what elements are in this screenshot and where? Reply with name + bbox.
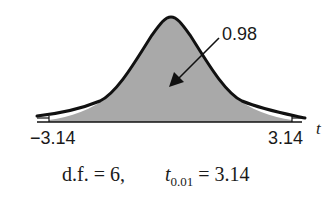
caption: d.f. = 6,t0.01 = 3.14 (62, 163, 250, 190)
degrees-of-freedom-text: d.f. = 6, (62, 163, 125, 185)
critical-value-text: = 3.14 (198, 163, 249, 185)
x-axis-label: t (316, 119, 321, 139)
t-subscript: 0.01 (171, 174, 194, 189)
t-distribution-figure: 0.98 −3.14 3.14 t d.f. = 6,t0.01 = 3.14 (0, 0, 334, 198)
area-probability-label: 0.98 (222, 24, 257, 45)
right-critical-value-label: 3.14 (268, 128, 303, 149)
left-critical-value-label: −3.14 (30, 128, 76, 149)
